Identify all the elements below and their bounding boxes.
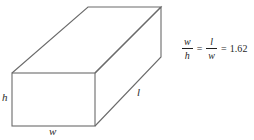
box-right-face — [95, 7, 161, 126]
width-label: w — [49, 126, 56, 137]
fraction-l-over-w: l w — [206, 36, 217, 61]
fraction-denominator-h: h — [183, 50, 192, 62]
fraction-w-over-h: w h — [182, 36, 193, 61]
rectangular-box-illustration — [0, 0, 254, 140]
ratio-equation: w h = l w = 1.62 — [181, 36, 248, 61]
fraction-numerator-l: l — [208, 36, 215, 48]
ratio-value: 1.62 — [230, 43, 248, 54]
box-top-face — [12, 7, 161, 73]
equals-sign-2: = — [221, 43, 227, 54]
height-label: h — [2, 92, 8, 103]
length-label: l — [137, 87, 140, 98]
box-front-face — [12, 73, 95, 126]
figure-root: h w l w h = l w = 1.62 — [0, 0, 254, 140]
fraction-denominator-w: w — [206, 50, 217, 62]
fraction-numerator-w: w — [182, 36, 193, 48]
equals-sign-1: = — [197, 43, 203, 54]
